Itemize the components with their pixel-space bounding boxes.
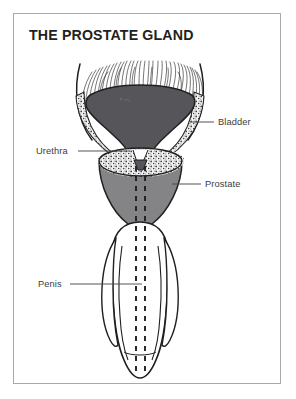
penis-shaft xyxy=(102,222,178,378)
label-bladder: Bladder xyxy=(218,117,251,127)
label-penis: Penis xyxy=(38,279,62,289)
prostate-gland xyxy=(95,145,187,228)
diagram-page: THE PROSTATE GLAND xyxy=(0,0,296,399)
label-prostate: Prostate xyxy=(205,179,240,189)
label-urethra: Urethra xyxy=(36,146,68,156)
prostate-anatomy-illustration xyxy=(0,0,296,399)
